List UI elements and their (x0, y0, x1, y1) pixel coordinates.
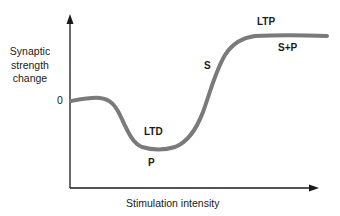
y-axis-label-line3: change (4, 72, 56, 86)
y-axis-label: Synaptic strength change (4, 45, 56, 86)
x-axis-arrow-icon (309, 185, 319, 192)
y-axis-arrow-icon (67, 14, 74, 24)
s-label: S (204, 59, 211, 72)
s-plus-p-label: S+P (278, 41, 297, 54)
x-axis-label: Stimulation intensity (126, 197, 219, 210)
p-label: P (148, 156, 155, 169)
y-axis-label-line2: strength (4, 59, 56, 73)
zero-tick-label: 0 (57, 94, 63, 107)
y-axis-label-line1: Synaptic (4, 45, 56, 59)
ltd-label: LTD (144, 125, 163, 138)
chart-canvas (0, 0, 340, 216)
ltp-label: LTP (257, 15, 275, 28)
